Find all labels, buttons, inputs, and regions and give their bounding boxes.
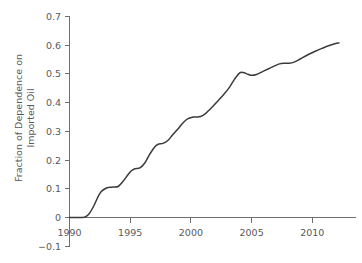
y-tick-label-0.4: 0.4 (46, 97, 61, 108)
y-tick-label-0.2: 0.2 (46, 155, 61, 166)
x-tick-label-2010: 2010 (300, 227, 324, 238)
x-tick-label-1990: 1990 (57, 227, 81, 238)
x-tick-label-1995: 1995 (118, 227, 142, 238)
chart-container: Fraction of Dependence on Imported Oil 0… (0, 0, 362, 263)
y-tick-marks (65, 17, 70, 247)
x-tick-label-2000: 2000 (179, 227, 203, 238)
y-axis-title-line-1: Fraction of Dependence on (13, 54, 24, 182)
x-tick-label-2005: 2005 (240, 227, 264, 238)
y-tick-label-minus0.1: −0.1 (38, 241, 61, 252)
y-tick-label-0.7: 0.7 (46, 11, 61, 22)
y-tick-label-0: 0 (55, 212, 61, 223)
y-tick-label-0.1: 0.1 (46, 183, 61, 194)
line-chart: Fraction of Dependence on Imported Oil 0… (0, 0, 362, 263)
y-tick-label-0.3: 0.3 (46, 126, 61, 137)
y-axis-title-line-2: Imported Oil (25, 88, 36, 147)
x-tick-marks (70, 218, 313, 223)
series-line-imported-oil (70, 43, 340, 218)
y-tick-labels: 0.7 0.6 0.5 0.4 0.3 0.2 0.1 0 −0.1 (38, 11, 61, 252)
y-axis-title: Fraction of Dependence on Imported Oil (13, 54, 36, 182)
y-tick-label-0.5: 0.5 (46, 68, 61, 79)
x-tick-labels: 1990 1995 2000 2005 2010 (57, 227, 324, 238)
y-tick-label-0.6: 0.6 (46, 40, 61, 51)
